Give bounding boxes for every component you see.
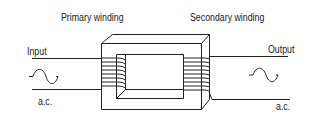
- output-sine-wave-icon: [249, 68, 278, 82]
- output-ac-label: a.c.: [276, 102, 290, 112]
- primary-winding-label: Primary winding: [61, 13, 124, 23]
- input-sine-wave-icon: [29, 69, 58, 83]
- output-leads: [209, 57, 290, 100]
- secondary-winding-label: Secondary winding: [190, 13, 264, 23]
- input-leads: [32, 59, 101, 90]
- input-ac-label: a.c.: [38, 97, 52, 107]
- input-label: Input: [27, 47, 47, 57]
- secondary-winding-coils: [183, 58, 210, 92]
- core: [102, 35, 210, 110]
- output-label: Output: [268, 45, 294, 55]
- primary-winding-coils: [101, 58, 125, 88]
